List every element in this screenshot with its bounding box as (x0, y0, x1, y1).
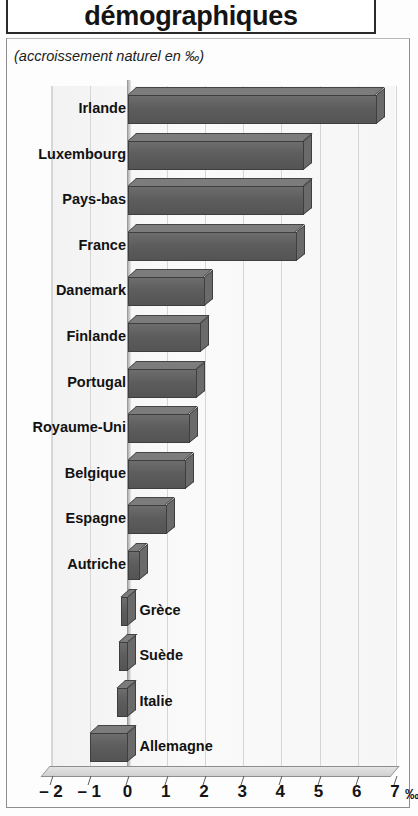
chart-subtitle: (accroissement naturel en ‰) (14, 48, 204, 64)
bar-side-face (297, 225, 305, 260)
bar[interactable] (128, 232, 296, 261)
bar[interactable] (117, 688, 128, 717)
axis-tick-label: 6 (352, 782, 361, 802)
bar-row (52, 633, 395, 679)
category-label-finlande: Finlande (0, 314, 126, 360)
category-label-autriche: Autriche (0, 542, 126, 588)
bar[interactable] (128, 186, 304, 215)
category-label-espagne: Espagne (0, 496, 126, 542)
axis-tick-label: 5 (314, 782, 323, 802)
category-label-luxembourg: Luxembourg (0, 132, 126, 178)
bar[interactable] (128, 141, 304, 170)
x-axis (45, 764, 395, 780)
bar-top-face (128, 452, 194, 460)
bar[interactable] (128, 460, 185, 489)
category-label-portugal: Portugal (0, 360, 126, 406)
bar-top-face (128, 269, 213, 277)
bar-top-face (128, 224, 305, 232)
axis-tick-label: – 2 (39, 782, 63, 802)
bar-side-face (140, 544, 148, 579)
bar-side-face (128, 726, 136, 761)
axis-tick-label: 1 (161, 782, 170, 802)
bar[interactable] (128, 95, 376, 124)
bar-side-face (205, 270, 213, 305)
bar-side-face (190, 407, 198, 442)
bar[interactable] (128, 551, 139, 580)
chart-page: démographiques (accroissement naturel en… (0, 0, 418, 816)
axis-tick-label: 4 (276, 782, 285, 802)
title-box: démographiques (6, 0, 376, 34)
category-label-royaume_uni: Royaume-Uni (0, 405, 126, 451)
bar-side-face (128, 589, 136, 624)
bar-top-face (128, 315, 209, 323)
bar[interactable] (128, 277, 204, 306)
bar-side-face (304, 133, 312, 168)
page-title: démographiques (84, 1, 297, 32)
bar-row (52, 679, 395, 725)
category-label-allemagne: Allemagne (139, 724, 212, 770)
bar[interactable] (90, 733, 128, 762)
bar[interactable] (121, 597, 129, 626)
category-label-italie: Italie (139, 679, 172, 725)
category-label-suede: Suède (139, 633, 183, 679)
axis-bar (40, 766, 399, 777)
category-label-france: France (0, 223, 126, 269)
category-label-irlande: Irlande (0, 86, 126, 132)
bar-side-face (167, 498, 175, 533)
bar[interactable] (128, 369, 197, 398)
axis-tick-label: – 1 (77, 782, 101, 802)
bar-row (52, 588, 395, 634)
axis-tick-label: 3 (237, 782, 246, 802)
bar-top-face (128, 178, 313, 186)
bar-side-face (128, 681, 136, 716)
category-label-grece: Grèce (139, 588, 180, 634)
bar-side-face (128, 635, 136, 670)
bar[interactable] (128, 323, 201, 352)
axis-tick-label: 7 (390, 782, 399, 802)
bar-top-face (128, 133, 313, 141)
category-label-pays_bas: Pays-bas (0, 177, 126, 223)
bar[interactable] (128, 505, 166, 534)
bar-top-face (128, 406, 198, 414)
axis-tick-label: 2 (199, 782, 208, 802)
bar-top-face (128, 361, 206, 369)
bar-side-face (304, 179, 312, 214)
category-label-danemark: Danemark (0, 268, 126, 314)
bar-side-face (186, 453, 194, 488)
category-label-belgique: Belgique (0, 451, 126, 497)
bar-side-face (377, 88, 385, 123)
axis-unit-label: ‰ (405, 786, 418, 802)
bar-side-face (201, 316, 209, 351)
bar-side-face (197, 361, 205, 396)
bar-top-face (128, 87, 385, 95)
axis-tick-label: 0 (123, 782, 132, 802)
bar[interactable] (119, 642, 129, 671)
gridline (396, 86, 397, 770)
bar[interactable] (128, 414, 189, 443)
